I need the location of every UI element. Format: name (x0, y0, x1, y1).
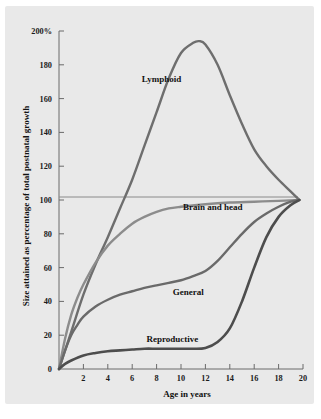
x-tick-label: 14 (226, 374, 234, 383)
curve-group (59, 41, 299, 369)
x-tick-label: 10 (177, 374, 185, 383)
x-tick-label: 18 (274, 374, 282, 383)
y-tick-label: 120 (40, 162, 52, 171)
growth-curves-chart: Size attained as percentage of total pos… (5, 6, 314, 404)
curve-label-lymphoid: Lymphoid (142, 74, 182, 84)
y-tick-label: 80 (44, 230, 52, 239)
x-tick-label: 8 (155, 374, 159, 383)
scanned-page: Size attained as percentage of total pos… (5, 6, 314, 404)
x-tick-label: 20 (299, 374, 307, 383)
y-axis-title: Size attained as percentage of total pos… (21, 106, 31, 306)
curve-label-general: General (173, 287, 204, 297)
x-tick-label: 4 (106, 374, 110, 383)
y-tick-label: 100 (40, 196, 52, 205)
x-tick-label: 16 (250, 374, 258, 383)
y-tick-label: 160 (40, 95, 52, 104)
x-tick-label: 6 (130, 374, 134, 383)
y-tick-label: 140 (40, 128, 52, 137)
curve-lymphoid (59, 41, 299, 369)
x-axis-ticks: 2468101214161820 (81, 364, 307, 383)
chart-screenshot: Size attained as percentage of total pos… (0, 0, 321, 419)
y-tick-label: 60 (44, 264, 52, 273)
x-tick-label: 2 (81, 374, 85, 383)
y-tick-label: 20 (44, 331, 52, 340)
y-tick-label: 180 (40, 61, 52, 70)
curve-label-reproductive: Reproductive (147, 334, 199, 344)
curve-label-brain-and-head: Brain and head (183, 202, 243, 212)
x-tick-label: 12 (201, 374, 209, 383)
y-tick-label: 200% (31, 27, 52, 36)
y-tick-label: 0 (48, 365, 52, 374)
y-tick-label: 40 (44, 297, 52, 306)
x-axis-title: Age in years (163, 389, 211, 399)
